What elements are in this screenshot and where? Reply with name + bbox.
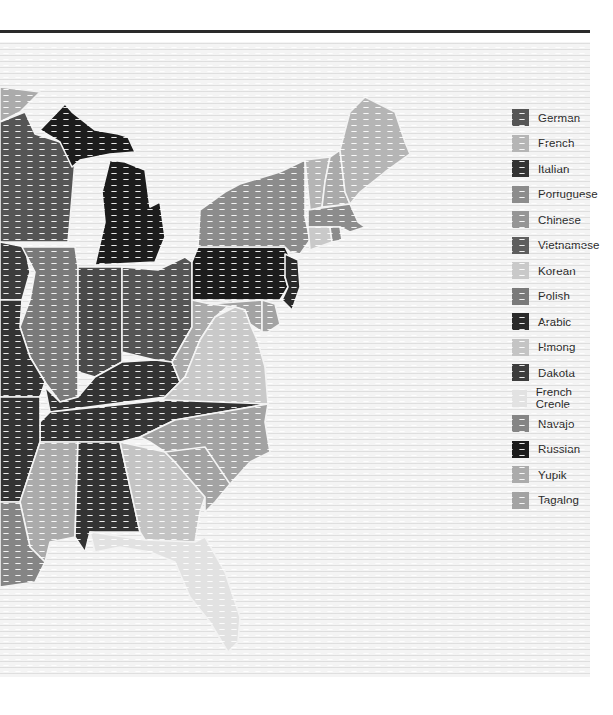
legend-item-chinese: Chinese — [512, 207, 600, 233]
legend-swatch — [512, 441, 529, 458]
legend-label: Russian — [538, 443, 580, 455]
legend-label: Tagalog — [538, 494, 579, 506]
legend-item-korean: Korean — [512, 258, 600, 284]
legend-item-german: German — [512, 105, 600, 131]
legend-item-hmong: Hmong — [512, 335, 600, 361]
legend-item-russian: Russian — [512, 437, 600, 463]
legend-swatch — [512, 415, 529, 432]
legend-item-arabic: Arabic — [512, 309, 600, 335]
state-new-york[interactable] — [198, 160, 310, 254]
legend-item-yupik: Yupik — [512, 462, 600, 488]
legend-swatch — [512, 390, 527, 407]
legend-item-french-creole: French Creole — [512, 386, 600, 412]
legend-item-tagalog: Tagalog — [512, 488, 600, 514]
legend-swatch — [512, 466, 529, 483]
legend-swatch — [512, 160, 529, 177]
legend-label: Chinese — [538, 214, 581, 226]
legend-item-polish: Polish — [512, 284, 600, 310]
legend-label: German — [538, 112, 580, 124]
legend-item-french: French — [512, 131, 600, 157]
state-maine[interactable] — [340, 97, 410, 204]
legend-label: Korean — [538, 265, 576, 277]
legend-item-dakota: Dakota — [512, 360, 600, 386]
state-michigan-lp[interactable] — [95, 160, 165, 265]
legend-item-italian: Italian — [512, 156, 600, 182]
state-delaware[interactable] — [262, 300, 280, 332]
state-connecticut[interactable] — [308, 227, 332, 250]
legend-item-portuguese: Portuguese — [512, 182, 600, 208]
legend-label: Italian — [538, 163, 569, 175]
legend-swatch — [512, 237, 529, 254]
legend-swatch — [512, 492, 529, 509]
legend-label: Polish — [538, 290, 570, 302]
legend-swatch — [512, 364, 529, 381]
legend-label: Yupik — [538, 469, 567, 481]
legend-label: Arabic — [538, 316, 571, 328]
top-rule — [0, 30, 590, 33]
legend-label: Hmong — [538, 341, 576, 353]
legend-label: Vietnamese — [538, 239, 600, 251]
legend-swatch — [512, 186, 529, 203]
legend-swatch — [512, 339, 529, 356]
legend-swatch — [512, 135, 529, 152]
state-pennsylvania[interactable] — [192, 247, 290, 300]
legend-label: Navajo — [538, 418, 574, 430]
state-indiana[interactable] — [78, 267, 122, 377]
state-florida[interactable] — [90, 532, 240, 652]
legend-swatch — [512, 288, 529, 305]
legend-swatch — [512, 109, 529, 126]
legend-label: Dakota — [538, 367, 575, 379]
legend: German French Italian Portuguese Chinese… — [512, 105, 600, 513]
legend-label: Portuguese — [538, 188, 598, 200]
legend-label: French Creole — [536, 386, 600, 410]
legend-swatch — [512, 313, 529, 330]
legend-item-vietnamese: Vietnamese — [512, 233, 600, 259]
legend-swatch — [512, 262, 529, 279]
legend-label: French — [538, 137, 574, 149]
legend-swatch — [512, 211, 529, 228]
map-canvas: German French Italian Portuguese Chinese… — [0, 42, 590, 677]
map-svg — [0, 42, 590, 677]
state-rhode-island[interactable] — [330, 227, 342, 242]
legend-item-navajo: Navajo — [512, 411, 600, 437]
